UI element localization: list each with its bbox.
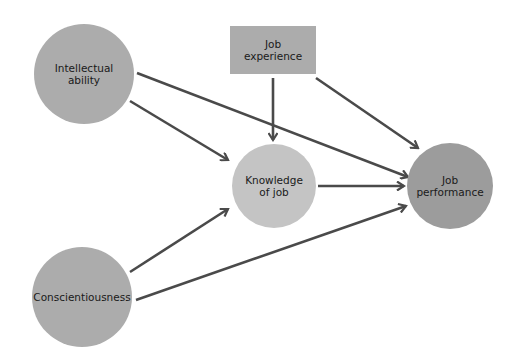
node-label: Job experience	[244, 38, 302, 62]
node-intellectual-ability: Intellectual ability	[34, 24, 134, 124]
arrow-conscientiousness-to-knowledge	[130, 209, 228, 272]
arrow-intellectual-to-knowledge	[130, 101, 228, 160]
node-job-experience: Job experience	[230, 26, 316, 74]
arrow-experience-to-performance	[316, 78, 418, 148]
node-label: Job performance	[416, 174, 483, 198]
node-knowledge-of-job: Knowledge of job	[232, 144, 316, 228]
node-label: Knowledge of job	[245, 174, 303, 198]
node-label: Conscientiousness	[33, 291, 130, 303]
node-job-performance: Job performance	[407, 143, 493, 229]
node-label: Intellectual ability	[55, 62, 114, 86]
node-conscientiousness: Conscientiousness	[32, 247, 132, 347]
